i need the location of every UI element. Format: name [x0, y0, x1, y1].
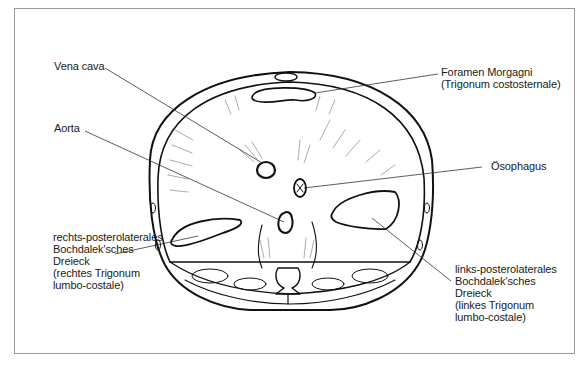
left-bochdalek-triangle [331, 191, 399, 229]
label-right-bochdalek: rechts-posterolaterales Bochdalek'sches … [53, 231, 163, 291]
diaphragm-contour [158, 82, 425, 262]
label-left-bochdalek-line1: links-posterolaterales [455, 263, 557, 275]
aorta [278, 212, 292, 233]
foramen-morgagni [252, 88, 315, 102]
label-left-bochdalek-line5: lumbo-costale) [455, 311, 526, 323]
label-aorta: Aorta [54, 122, 80, 134]
right-bochdalek-triangle [171, 219, 241, 246]
vertebra [276, 268, 300, 294]
label-foramen-morgagni-line2: (Trigonum costosternale) [441, 78, 560, 90]
vena-cava-foramen [257, 162, 275, 178]
label-foramen-morgagni-line1: Foramen Morgagni [441, 66, 532, 78]
label-left-bochdalek-line4: (linkes Trigonum [455, 299, 534, 311]
leader-oesophagus [304, 167, 482, 188]
label-left-bochdalek-line3: Dreieck [455, 287, 492, 299]
label-left-bochdalek: links-posterolaterales Bochdalek'sches D… [455, 263, 557, 323]
leader-vena-cava [105, 68, 262, 163]
sternum [275, 73, 297, 81]
label-right-bochdalek-line4: (rechtes Trigonum [53, 267, 140, 279]
label-left-bochdalek-line2: Bochdalek'sches [455, 275, 536, 287]
label-right-bochdalek-line5: lumbo-costale) [53, 279, 124, 291]
label-vena-cava: Vena cava [54, 60, 104, 72]
label-oesophagus: Ösophagus [491, 160, 546, 172]
leader-aorta [85, 131, 284, 222]
label-right-bochdalek-line2: Bochdalek'sches [53, 243, 134, 255]
label-right-bochdalek-line3: Dreieck [53, 255, 90, 267]
label-right-bochdalek-line1: rechts-posterolaterales [53, 231, 163, 243]
label-foramen-morgagni: Foramen Morgagni (Trigonum costosternale… [441, 66, 560, 90]
